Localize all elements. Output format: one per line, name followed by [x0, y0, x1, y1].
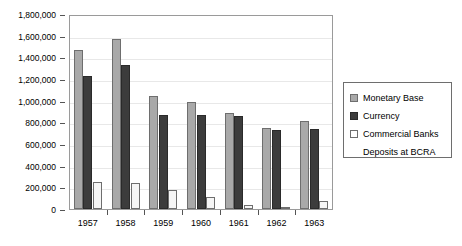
- legend-label-currency: Currency: [363, 111, 400, 121]
- bar: [262, 128, 271, 209]
- y-axis-tick-label: 1,600,000: [18, 32, 56, 41]
- gridline: [70, 103, 332, 104]
- bar: [159, 115, 168, 209]
- y-axis: 1,800,0001,600,0001,400,0001,200,0001,00…: [0, 0, 69, 246]
- legend-item-monetary-base: Monetary Base: [344, 89, 451, 107]
- bar: [310, 129, 319, 209]
- bar: [244, 205, 253, 209]
- legend-item-currency: Currency: [344, 107, 451, 125]
- x-axis-tick: [182, 210, 183, 215]
- legend-item-commercial-banks: Commercial Banks: [344, 125, 451, 143]
- bar: [168, 190, 177, 210]
- y-axis-tick-label: 1,200,000: [18, 76, 56, 85]
- bar: [93, 182, 102, 209]
- y-axis-tick-label: 600,000: [25, 141, 56, 150]
- bar: [197, 115, 206, 209]
- y-axis-tick: [60, 58, 65, 59]
- y-axis-tick-label: 0: [51, 206, 56, 215]
- x-axis-tick: [295, 210, 296, 215]
- bar: [234, 116, 243, 209]
- legend-label-monetary-base: Monetary Base: [363, 93, 424, 103]
- y-axis-tick-label: 1,400,000: [18, 54, 56, 63]
- bar: [206, 197, 215, 209]
- y-axis-tick-label: 800,000: [25, 119, 56, 128]
- y-axis-tick-label: 1,800,000: [18, 11, 56, 20]
- y-axis-tick-label: 200,000: [25, 184, 56, 193]
- y-axis-tick: [60, 102, 65, 103]
- y-axis-tick-label: 1,000,000: [18, 97, 56, 106]
- bar: [131, 183, 140, 209]
- bar: [149, 96, 158, 209]
- x-axis-tick: [144, 210, 145, 215]
- x-axis-tick: [258, 210, 259, 215]
- gridline: [70, 59, 332, 60]
- y-axis-tick: [60, 188, 65, 189]
- legend-swatch-icon-monetary-base: [350, 94, 358, 102]
- y-axis-tick: [60, 15, 65, 16]
- bar: [300, 121, 309, 209]
- y-axis-tick: [60, 37, 65, 38]
- y-axis-tick-label: 400,000: [25, 162, 56, 171]
- bar: [74, 50, 83, 209]
- bar: [187, 102, 196, 209]
- bar: [112, 39, 121, 209]
- bar: [319, 201, 328, 209]
- x-axis-tick: [220, 210, 221, 215]
- bar: [225, 113, 234, 209]
- bar-chart: 1,800,0001,600,0001,400,0001,200,0001,00…: [0, 0, 462, 246]
- chart-legend: Monetary Base Currency Commercial Banks …: [343, 82, 452, 158]
- legend-swatch-icon-currency: [350, 112, 358, 120]
- y-axis-tick: [60, 80, 65, 81]
- legend-label-commercial-banks-line2: Deposits at BCRA: [363, 147, 436, 157]
- bar: [83, 76, 92, 209]
- x-axis-tick: [107, 210, 108, 215]
- legend-swatch-icon-commercial-banks: [350, 130, 358, 138]
- legend-item-commercial-banks-line2: Deposits at BCRA: [344, 143, 451, 161]
- bar: [272, 130, 281, 209]
- gridline: [70, 38, 332, 39]
- bar: [281, 207, 290, 209]
- bar: [121, 65, 130, 209]
- x-axis-tick-label: 1963: [284, 218, 344, 228]
- legend-label-commercial-banks: Commercial Banks: [363, 129, 439, 139]
- y-axis-tick: [60, 210, 65, 211]
- y-axis-tick: [60, 145, 65, 146]
- plot-area: [69, 15, 333, 210]
- y-axis-tick: [60, 167, 65, 168]
- gridline: [70, 81, 332, 82]
- y-axis-tick: [60, 123, 65, 124]
